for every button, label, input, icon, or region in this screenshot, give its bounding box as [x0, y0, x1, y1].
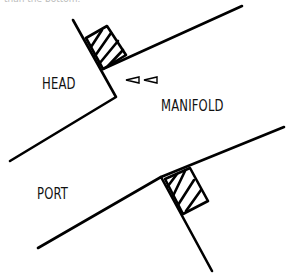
lower-gasket	[165, 168, 208, 214]
port-outline	[38, 127, 284, 271]
port-label: PORT	[37, 185, 68, 203]
manifold-upper-line	[103, 6, 242, 69]
head-label: HEAD	[42, 75, 76, 93]
gasket-diagram	[0, 0, 295, 279]
manifold-label: MANIFOLD	[161, 97, 224, 115]
flow-arrows-icon	[126, 77, 157, 83]
